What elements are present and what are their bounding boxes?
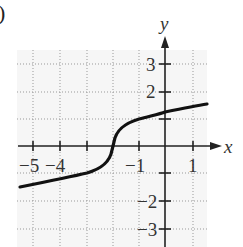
- x-tick-label: 1: [188, 155, 198, 176]
- x-tick-label: −4: [45, 155, 66, 176]
- x-axis-arrow-icon: [210, 142, 222, 150]
- function-graph: −5 −4 −1 1 3 2 −2 −3 x y: [0, 0, 243, 247]
- x-axis-label: x: [223, 136, 233, 157]
- y-axis-arrow-icon: [161, 36, 169, 48]
- y-tick-label: 3: [146, 54, 156, 75]
- y-tick-label: −2: [137, 191, 157, 212]
- x-tick-label: −5: [19, 155, 39, 176]
- y-axis-label: y: [158, 13, 169, 34]
- y-tick-label: 2: [146, 81, 156, 102]
- x-tick-label: −1: [125, 155, 145, 176]
- y-tick-label: −3: [137, 219, 157, 240]
